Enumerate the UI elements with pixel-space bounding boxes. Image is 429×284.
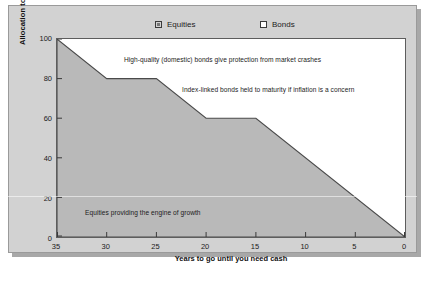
annotation-equities-engine: Equities providing the engine of growth: [85, 209, 201, 216]
plot-area: High-quality (domestic) bonds give prote…: [56, 38, 406, 238]
x-axis-title: Years to go until you need cash: [56, 254, 406, 263]
x-tick-label: 30: [94, 242, 118, 251]
hollow-square-icon: [260, 21, 267, 28]
y-tick-label: 20: [28, 194, 52, 203]
y-axis-tick-labels: 100 80 60 40 20 0: [25, 38, 52, 238]
y-tick-label: 100: [28, 34, 52, 43]
x-tick-label: 0: [392, 242, 416, 251]
y-tick-label: 40: [28, 154, 52, 163]
y-tick-label: 80: [28, 74, 52, 83]
chart-figure: Equities Bonds Allocation to equities (%…: [0, 0, 429, 284]
x-axis-tick-labels: 35 30 25 20 15 10 5 0: [56, 242, 406, 254]
chart-panel: Equities Bonds Allocation to equities (%…: [8, 5, 417, 253]
x-tick-label: 15: [243, 242, 267, 251]
legend-label-bonds: Bonds: [272, 20, 295, 29]
legend-label-equities: Equities: [167, 20, 195, 29]
annotation-index-linked: Index-linked bonds held to maturity if i…: [182, 86, 354, 93]
x-tick-label: 20: [193, 242, 217, 251]
legend-item-equities[interactable]: Equities: [155, 20, 195, 29]
legend-item-bonds[interactable]: Bonds: [260, 20, 295, 29]
annotation-bonds-protection: High-quality (domestic) bonds give prote…: [124, 56, 321, 63]
x-tick-label: 10: [293, 242, 317, 251]
x-tick-label: 35: [44, 242, 68, 251]
x-tick-label: 5: [342, 242, 366, 251]
y-tick-label: 60: [28, 114, 52, 123]
equities-bonds-area-svg: [57, 39, 405, 237]
filled-square-icon: [155, 21, 162, 28]
x-tick-label: 25: [143, 242, 167, 251]
chart-legend: Equities Bonds: [9, 20, 416, 36]
